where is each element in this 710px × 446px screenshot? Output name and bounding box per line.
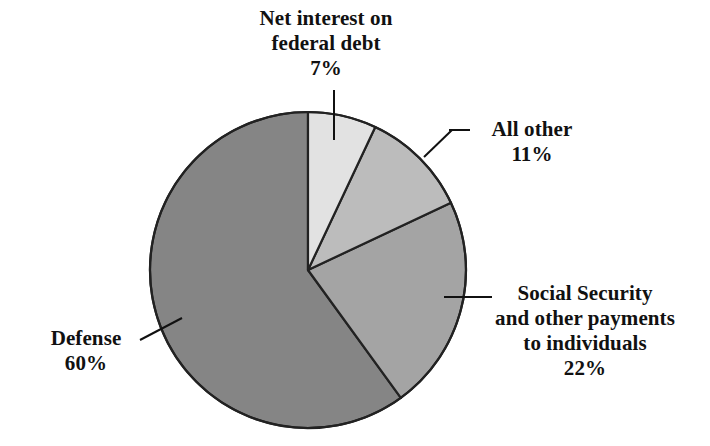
pie-label-social-security-line2: and other payments — [495, 306, 675, 330]
pie-label-net-interest-percent: 7% — [214, 56, 438, 81]
pie-label-social-security-line3: to individuals — [523, 331, 646, 355]
pie-label-social-security-percent: 22% — [471, 356, 699, 381]
leader-line-all-other-diagonal — [424, 130, 452, 157]
pie-label-defense: Defense 60% — [22, 326, 150, 376]
pie-label-net-interest-line1: Net interest on — [260, 6, 393, 30]
pie-label-defense-line1: Defense — [51, 326, 122, 350]
pie-label-all-other-line1: All other — [492, 117, 573, 141]
pie-label-social-security-line1: Social Security — [517, 281, 652, 305]
pie-label-net-interest: Net interest on federal debt 7% — [214, 6, 438, 81]
pie-label-all-other-percent: 11% — [456, 142, 608, 167]
pie-label-all-other: All other 11% — [456, 117, 608, 167]
pie-label-defense-percent: 60% — [22, 351, 150, 376]
pie-chart-figure: Net interest on federal debt 7% All othe… — [0, 0, 710, 446]
pie-label-social-security: Social Security and other payments to in… — [471, 281, 699, 381]
pie-label-net-interest-line2: federal debt — [271, 31, 380, 55]
